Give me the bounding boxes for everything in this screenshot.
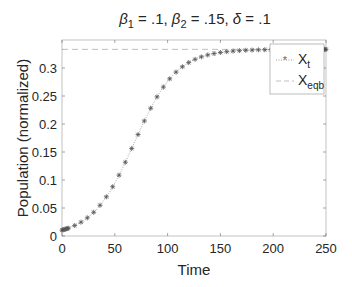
x-tick-label: 250 xyxy=(315,241,337,256)
y-tick-label: 0.05 xyxy=(32,201,57,216)
asterisk-marker-icon xyxy=(79,220,84,225)
asterisk-marker-icon xyxy=(262,47,267,52)
asterisk-marker-icon xyxy=(256,47,261,52)
chart-title: β1 = .1, β2 = .15, δ = .1 xyxy=(118,10,271,30)
asterisk-marker-icon xyxy=(250,48,255,53)
y-tick-label: 0 xyxy=(50,229,57,244)
legend: * Xt Xeqb xyxy=(270,44,324,94)
x-tick-label: 0 xyxy=(58,241,65,256)
asterisk-marker-icon xyxy=(104,194,109,199)
asterisk-marker-icon xyxy=(85,215,90,220)
asterisk-marker-icon xyxy=(180,64,185,69)
asterisk-marker-icon xyxy=(212,51,217,56)
asterisk-marker-icon xyxy=(167,76,172,81)
y-tick-label: 0.2 xyxy=(39,117,57,132)
y-tick-label: 0.15 xyxy=(32,145,57,160)
x-tick-label: 150 xyxy=(210,241,232,256)
x-tick-label: 100 xyxy=(157,241,179,256)
asterisk-marker-icon xyxy=(66,226,71,231)
y-tick-label: 0.1 xyxy=(39,173,57,188)
asterisk-marker-icon xyxy=(231,49,236,54)
asterisk-marker-icon xyxy=(117,173,122,178)
asterisk-marker-icon xyxy=(123,160,128,165)
chart: β1 = .1, β2 = .15, δ = .1 05010015020025… xyxy=(0,0,352,287)
x-axis-label: Time xyxy=(178,261,211,278)
asterisk-marker-icon xyxy=(142,118,147,123)
asterisk-marker-icon xyxy=(174,70,179,75)
asterisk-marker-icon xyxy=(186,60,191,65)
asterisk-marker-icon xyxy=(72,223,77,228)
asterisk-marker-icon xyxy=(243,48,248,53)
asterisk-marker-icon xyxy=(205,52,210,57)
asterisk-marker-icon xyxy=(218,50,223,55)
asterisk-marker-icon xyxy=(155,94,160,99)
x-tick-label: 200 xyxy=(262,241,284,256)
asterisk-marker-icon xyxy=(129,146,134,151)
asterisk-marker-icon xyxy=(224,49,229,54)
asterisk-marker-icon xyxy=(193,57,198,62)
asterisk-marker-icon xyxy=(237,48,242,53)
asterisk-marker-icon: * xyxy=(283,54,288,66)
asterisk-marker-icon xyxy=(161,85,166,90)
y-axis-label: Population (normalized) xyxy=(14,59,31,217)
asterisk-marker-icon xyxy=(98,203,103,208)
y-tick-label: 0.25 xyxy=(32,89,57,104)
asterisk-marker-icon xyxy=(110,184,115,189)
asterisk-marker-icon xyxy=(199,54,204,59)
x-tick-label: 50 xyxy=(108,241,122,256)
y-tick-label: 0.3 xyxy=(39,61,57,76)
asterisk-marker-icon xyxy=(148,106,153,111)
asterisk-marker-icon xyxy=(136,132,141,137)
asterisk-marker-icon xyxy=(91,210,96,215)
